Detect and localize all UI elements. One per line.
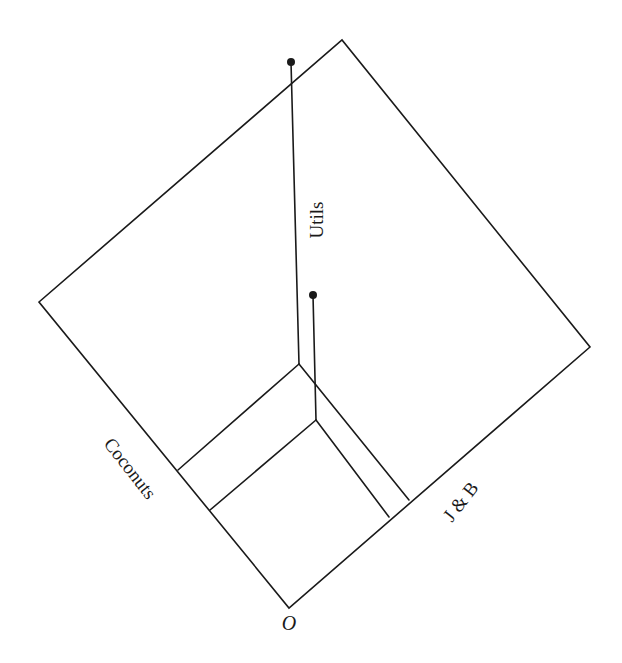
jb-axis-label: J & B <box>439 478 483 526</box>
smaller-bundle-utility-dot <box>309 291 317 299</box>
smaller-bundle-jb-edge <box>316 420 389 517</box>
utils-axis-label: Utils <box>306 202 327 239</box>
larger-bundle-coconut-edge <box>178 364 299 470</box>
origin-label: O <box>282 612 296 634</box>
smaller-bundle-coconut-edge <box>210 420 316 510</box>
coconuts-axis-label: Coconuts <box>100 434 161 503</box>
utility-diagram: Utils Coconuts J & B O <box>0 0 622 663</box>
larger-bundle-utility-dot <box>287 58 295 66</box>
commodity-plane <box>39 40 590 608</box>
larger-bundle-utility-line <box>291 62 299 364</box>
smaller-bundle-utility-line <box>313 295 316 420</box>
